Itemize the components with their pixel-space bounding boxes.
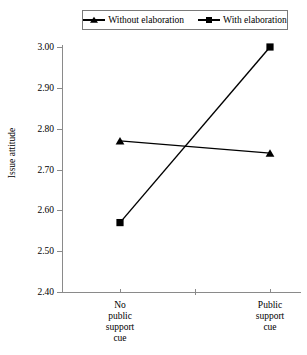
line-chart: Without elaboration With elaboration Iss…: [0, 0, 307, 355]
data-point-square: [266, 43, 273, 50]
data-point-square: [116, 219, 123, 226]
series-line-square: [120, 47, 270, 223]
series-layer: [0, 0, 307, 355]
series-line-triangle: [120, 141, 270, 153]
